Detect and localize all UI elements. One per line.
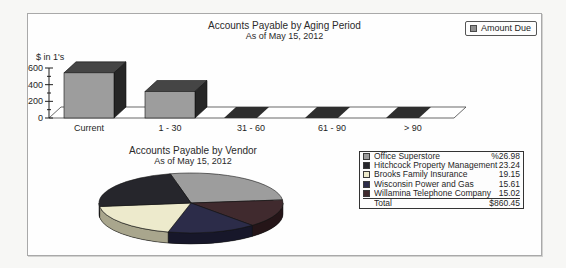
legend-vendor-name: Office Superstore xyxy=(374,152,491,161)
legend-swatch-hitchcock-property-management xyxy=(363,162,370,169)
legend-swatch-brooks-family-insurance xyxy=(363,171,370,178)
legend-total-label: Total xyxy=(374,199,489,208)
legend-vendor-name: Hitchcock Property Management xyxy=(374,161,499,170)
aging-bar-chart: 0200400600$ in 1'sCurrent1 - 3031 - 6061… xyxy=(28,14,541,146)
legend-swatch-office-superstore xyxy=(363,153,370,160)
legend-row-office-superstore: Office Superstore%26.98 xyxy=(363,152,520,161)
legend-total-row: Total$860.45 xyxy=(363,198,520,208)
bar-1-30[interactable] xyxy=(145,92,195,119)
legend-vendor-value: 15.02 xyxy=(499,189,520,198)
vendor-legend-table: Office Superstore%26.98Hitchcock Propert… xyxy=(359,151,524,209)
category-label: 31 - 60 xyxy=(237,123,265,133)
legend-vendor-name: Willamina Telephone Company xyxy=(374,189,499,198)
y-tick-label: 400 xyxy=(28,80,43,90)
legend-swatch-willamina-telephone-company xyxy=(363,190,370,197)
legend-vendor-name: Wisconsin Power and Gas xyxy=(374,180,499,189)
legend-vendor-name: Brooks Family Insurance xyxy=(374,170,499,179)
category-label: > 90 xyxy=(404,123,422,133)
category-label: Current xyxy=(74,123,105,133)
legend-row-brooks-family-insurance: Brooks Family Insurance19.15 xyxy=(363,170,520,179)
legend-row-wisconsin-power-and-gas: Wisconsin Power and Gas15.61 xyxy=(363,180,520,189)
category-label: 1 - 30 xyxy=(158,123,181,133)
legend-swatch-wisconsin-power-and-gas xyxy=(363,181,370,188)
legend-row-hitchcock-property-management: Hitchcock Property Management23.24 xyxy=(363,161,520,170)
legend-row-willamina-telephone-company: Willamina Telephone Company15.02 xyxy=(363,189,520,198)
y-tick-label: 600 xyxy=(28,63,43,73)
legend-total-value: $860.45 xyxy=(489,199,520,208)
bar-current[interactable] xyxy=(64,73,114,118)
y-axis-title: $ in 1's xyxy=(36,52,65,62)
report-graph-panel: Accounts Payable by Aging Period As of M… xyxy=(27,13,542,256)
y-tick-label: 0 xyxy=(38,113,43,123)
y-tick-label: 200 xyxy=(28,96,43,106)
category-label: 61 - 90 xyxy=(318,123,346,133)
